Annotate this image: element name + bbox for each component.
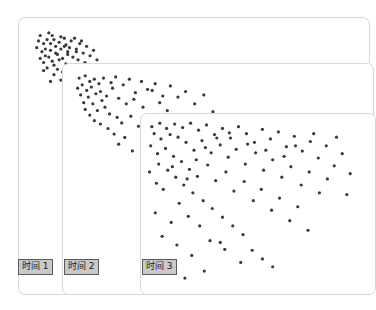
panel-label-time-2: 时间 2 <box>64 259 99 275</box>
panel-label-time-3: 时间 3 <box>142 259 177 275</box>
panel-label-time-1: 时间 1 <box>18 259 53 275</box>
